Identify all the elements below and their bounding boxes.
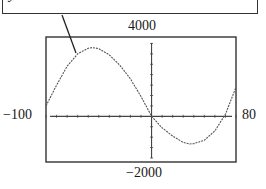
pointer-line [62, 15, 76, 53]
graph-window [0, 0, 266, 189]
cubic-curve [46, 48, 236, 144]
axes [46, 43, 236, 158]
graph-frame [46, 37, 236, 162]
